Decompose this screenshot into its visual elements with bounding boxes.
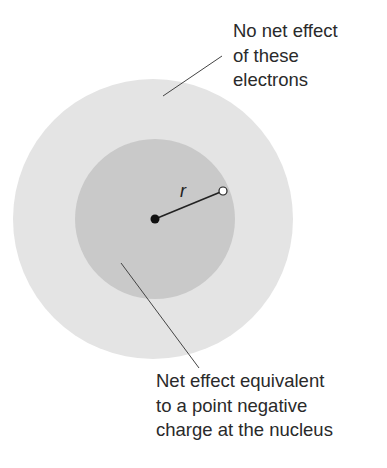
bottom-annotation: Net effect equivalent to a point negativ… xyxy=(156,369,333,443)
radius-label: r xyxy=(180,181,187,201)
top-annotation-line: No net effect xyxy=(233,19,338,44)
top-annotation-line: electrons xyxy=(233,68,338,93)
top-annotation-line: of these xyxy=(233,44,338,69)
electron-point xyxy=(219,187,227,195)
top-annotation: No net effect of these electrons xyxy=(233,19,338,93)
nucleus-dot xyxy=(151,215,160,224)
bottom-annotation-line: Net effect equivalent xyxy=(156,369,333,394)
bottom-annotation-line: charge at the nucleus xyxy=(156,418,333,443)
bottom-annotation-line: to a point negative xyxy=(156,394,333,419)
